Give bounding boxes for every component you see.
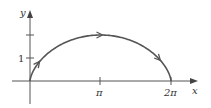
cycloid-curve — [30, 35, 171, 81]
x-axis-arrow-icon — [190, 78, 198, 84]
y-axis-arrow-icon — [27, 10, 33, 18]
y-axis-label: y — [19, 7, 26, 18]
x-tick-label-pi: π — [95, 87, 103, 98]
y-tick-label-1: 1 — [18, 53, 24, 64]
x-tick-label-2pi: 2π — [163, 87, 177, 98]
cycloid-diagram: y x 1 π 2π — [0, 0, 211, 108]
x-axis-label: x — [192, 85, 198, 96]
